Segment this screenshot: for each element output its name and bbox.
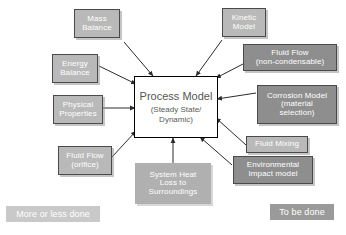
arrow-fluid-mixing <box>216 118 246 145</box>
node-fluid-mixing[interactable]: Fluid Mixing <box>246 136 308 153</box>
arrow-energy-balance <box>99 66 136 84</box>
node-system-heat-loss[interactable]: System Heat Loss to Surroundings <box>135 163 211 204</box>
arrow-corrosion-model <box>217 93 256 99</box>
node-physical-properties[interactable]: Physical Properties <box>53 95 103 124</box>
node-kinetic-model-line-2: Model <box>233 23 255 32</box>
process-model-subtitle: (Steady State/ Dynamic) <box>135 105 217 123</box>
diagram-canvas: Process Model (Steady State/ Dynamic) Ma… <box>0 0 346 235</box>
legend-to-be-done-label: To be done <box>279 207 325 217</box>
node-energy-balance-line-2: Balance <box>60 69 90 78</box>
node-environmental-impact-model-line-2: Impact model <box>248 170 297 179</box>
node-mass-balance-line-2: Balance <box>82 24 112 33</box>
node-fluid-flow-non-condensable[interactable]: Fluid Flow (non-condensable) <box>243 44 337 71</box>
node-physical-properties-line-2: Properties <box>59 110 96 119</box>
arrow-fluid-flow-orifice <box>112 131 136 157</box>
node-fluid-flow-orifice[interactable]: Fluid Flow (orifice) <box>58 146 112 175</box>
node-environmental-impact-model[interactable]: Environmental Impact model <box>233 156 313 184</box>
arrow-mass-balance <box>124 42 153 76</box>
node-corrosion-model[interactable]: Corrosion Model (material selection) <box>257 85 337 124</box>
legend-more-or-less-done-label: More or less done <box>16 209 90 219</box>
node-fluid-mixing-line-1: Fluid Mixing <box>255 140 299 149</box>
node-fluid-flow-orifice-line-2: (orifice) <box>71 161 99 170</box>
node-process-model[interactable]: Process Model (Steady State/ Dynamic) <box>134 76 218 138</box>
legend-more-or-less-done: More or less done <box>6 206 100 222</box>
node-mass-balance[interactable]: Mass Balance <box>74 9 120 38</box>
node-kinetic-model[interactable]: Kinetic Model <box>222 8 266 37</box>
arrow-fluid-flow-non-condensable <box>216 64 243 78</box>
node-system-heat-loss-line-3: Surroundings <box>149 188 198 197</box>
process-model-subtitle-line1: (Steady State/ <box>151 105 202 114</box>
node-energy-balance[interactable]: Energy Balance <box>52 54 98 83</box>
arrow-environmental-impact-model <box>200 137 232 165</box>
node-fluid-flow-non-condensable-line-2: (non-condensable) <box>256 58 324 67</box>
process-model-title: Process Model <box>140 90 213 102</box>
legend-to-be-done: To be done <box>270 204 334 220</box>
arrow-kinetic-model <box>196 40 222 76</box>
process-model-subtitle-line2: Dynamic) <box>159 115 193 124</box>
node-corrosion-model-line-3: selection) <box>279 109 314 118</box>
